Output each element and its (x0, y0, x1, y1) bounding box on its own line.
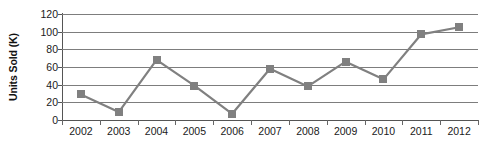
y-tick-label: 120 (40, 9, 58, 20)
y-tick-label: 40 (46, 79, 58, 90)
x-tick-mark (327, 120, 328, 125)
data-point-marker (190, 82, 198, 90)
data-point-marker (417, 30, 425, 38)
x-axis-line (62, 120, 478, 121)
x-tick-label: 2012 (447, 126, 470, 137)
x-tick-mark (100, 120, 101, 125)
x-tick-mark (62, 120, 63, 125)
y-tick-label: 80 (46, 44, 58, 55)
data-point-marker (153, 56, 161, 64)
data-point-marker (342, 58, 350, 66)
x-tick-label: 2006 (220, 126, 243, 137)
x-tick-mark (440, 120, 441, 125)
x-tick-label: 2005 (183, 126, 206, 137)
data-point-marker (455, 23, 463, 31)
x-tick-label: 2010 (372, 126, 395, 137)
x-tick-label: 2004 (145, 126, 168, 137)
x-tick-label: 2003 (107, 126, 130, 137)
data-point-marker (304, 82, 312, 90)
y-tick-label: 100 (40, 26, 58, 37)
x-tick-label: 2007 (258, 126, 281, 137)
x-tick-label: 2008 (296, 126, 319, 137)
data-point-marker (379, 75, 387, 83)
y-axis-tick-labels: 020406080100120 (24, 0, 58, 134)
data-point-marker (77, 90, 85, 98)
data-point-marker (228, 110, 236, 118)
line-chart: Units Sold (K) 020406080100120 200220032… (0, 0, 495, 160)
x-tick-mark (175, 120, 176, 125)
x-tick-label: 2009 (334, 126, 357, 137)
x-tick-mark (365, 120, 366, 125)
x-tick-mark (251, 120, 252, 125)
x-tick-mark (478, 120, 479, 125)
x-tick-label: 2002 (69, 126, 92, 137)
y-tick-label: 60 (46, 62, 58, 73)
plot-area (62, 14, 478, 120)
x-tick-mark (213, 120, 214, 125)
x-tick-mark (289, 120, 290, 125)
y-axis-title: Units Sold (K) (2, 0, 24, 134)
x-tick-mark (402, 120, 403, 125)
data-point-marker (115, 108, 123, 116)
x-tick-label: 2011 (410, 126, 433, 137)
data-point-marker (266, 65, 274, 73)
x-axis-tick-labels: 2002200320042005200620072008200920102011… (62, 126, 478, 146)
y-tick-label: 20 (46, 97, 58, 108)
x-tick-mark (138, 120, 139, 125)
y-axis-title-text: Units Sold (K) (7, 33, 19, 101)
